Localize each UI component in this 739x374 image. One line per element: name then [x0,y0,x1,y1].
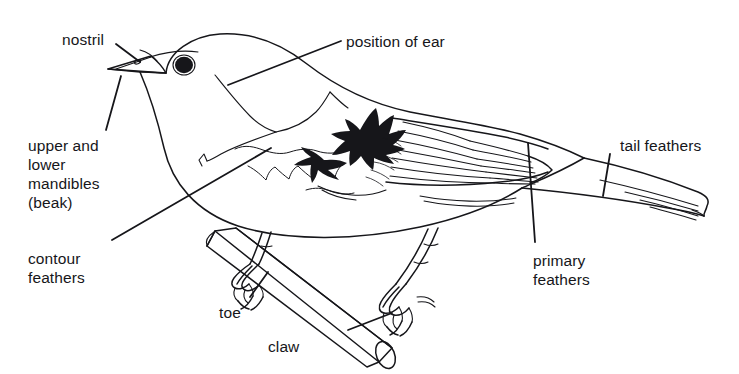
branch-perch [206,228,399,371]
leader-nostril [116,44,140,62]
label-position-of-ear: position of ear [346,32,445,51]
wing-covert-patch [294,108,406,200]
label-toe: toe [219,303,241,322]
primary-feathers-detail [386,118,552,206]
legs-and-feet [232,228,438,336]
label-contour-feathers: contour feathers [28,249,85,287]
label-primary-feathers: primary feathers [533,251,590,289]
label-nostril: nostril [62,30,104,49]
leader-position-of-ear [228,41,341,85]
head-detail [150,51,348,166]
bird-illustration [0,0,739,374]
leader-toe [250,272,268,297]
label-upper-lower-mandibles: upper and lower mandibles (beak) [28,136,100,212]
leader-tail-feathers [603,154,610,196]
eye [175,57,193,73]
leader-mandibles [106,76,121,130]
beak [108,50,166,73]
label-tail-feathers: tail feathers [620,136,701,155]
bird-anatomy-diagram: nostril position of ear upper and lower … [0,0,739,374]
label-claw: claw [268,337,299,356]
leader-contour-feathers [112,148,271,240]
leader-claw [348,313,392,330]
